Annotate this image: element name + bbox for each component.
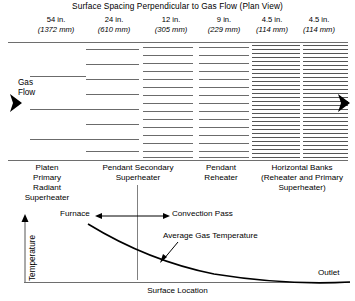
tube-line [143, 55, 193, 56]
tube-line [303, 153, 348, 154]
tube-line [303, 157, 348, 158]
tube-line [303, 89, 348, 90]
tube-line [303, 57, 348, 58]
column-header-5: 4.5 in. (114 mm) [283, 15, 355, 34]
tube-bank-pendant-reheater [199, 46, 249, 158]
component-label-line: Platen [8, 163, 86, 173]
tube-line [303, 117, 348, 118]
tube-line [199, 55, 249, 56]
tube-line [86, 49, 139, 50]
tube-bank-platen-primary-radiant-superheater [30, 46, 86, 156]
tube-line [199, 151, 249, 152]
tube-bank-pendant-secondary-superheater [86, 46, 139, 156]
gas-flow-outlet-arrow-icon [336, 92, 355, 114]
tube-line [252, 121, 300, 122]
tube-line [199, 127, 249, 128]
tube-line [252, 57, 300, 58]
tube-line [252, 129, 300, 130]
tube-line [303, 125, 348, 126]
tube-line [30, 139, 86, 140]
component-label-line: Superheater [86, 173, 190, 183]
tube-line [143, 119, 193, 120]
component-label-line: Superheater) [252, 183, 352, 193]
tube-line [252, 49, 300, 50]
component-label-line: Primary [8, 173, 86, 183]
tube-line [199, 157, 249, 158]
tube-line [199, 119, 249, 120]
tube-line [143, 79, 193, 80]
tube-line [86, 79, 139, 80]
tube-line [252, 61, 300, 62]
tube-line [252, 157, 300, 158]
tube-line [143, 151, 193, 152]
tube-line [252, 101, 300, 102]
average-gas-temperature-label: Average Gas Temperature [163, 231, 258, 241]
component-label-line: Superheater [8, 193, 86, 203]
tube-line [30, 109, 86, 110]
figure-title: Surface Spacing Perpendicular to Gas Flo… [0, 1, 355, 12]
tube-line [199, 71, 249, 72]
tube-line [252, 89, 300, 90]
tube-line [86, 124, 139, 125]
tube-line [252, 93, 300, 94]
tube-line [86, 94, 139, 95]
tube-line [252, 153, 300, 154]
tube-line [199, 79, 249, 80]
tube-line [252, 45, 300, 46]
tube-line [252, 149, 300, 150]
tube-line [86, 64, 139, 65]
tube-line [303, 49, 348, 50]
tube-line [143, 63, 193, 64]
tube-line [199, 111, 249, 112]
tube-line [86, 151, 139, 152]
tube-line [252, 69, 300, 70]
tube-line [252, 113, 300, 114]
tube-line [303, 149, 348, 150]
tube-line [199, 95, 249, 96]
tube-line [143, 135, 193, 136]
component-label-line: Radiant [8, 183, 86, 193]
tube-line [303, 69, 348, 70]
component-label-pendant-secondary-superheater: Pendant Secondary Superheater [86, 163, 190, 183]
tube-line [303, 145, 348, 146]
tube-bank-pendant-secondary-superheater-b [143, 46, 193, 158]
tube-line [252, 85, 300, 86]
tube-line [86, 109, 139, 110]
tube-line [303, 141, 348, 142]
tube-line [143, 157, 193, 158]
tube-line [86, 139, 139, 140]
tube-line [30, 76, 86, 77]
tube-line [252, 145, 300, 146]
tube-line [143, 87, 193, 88]
tube-line [143, 103, 193, 104]
tube-line [143, 47, 193, 48]
tube-line [303, 65, 348, 66]
x-axis-label: Surface Location [0, 286, 355, 296]
outlet-label: Outlet [318, 268, 340, 278]
tube-line [252, 81, 300, 82]
component-label-horizontal-banks: Horizontal Banks (Reheater and Primary S… [252, 163, 352, 193]
tube-line [303, 77, 348, 78]
tube-line [199, 63, 249, 64]
tube-line [252, 65, 300, 66]
average-gas-temperature-leader-icon [158, 241, 180, 263]
tube-line [252, 117, 300, 118]
plan-view-top-rule [8, 42, 348, 43]
tube-line [252, 141, 300, 142]
plan-view-bottom-rule [8, 160, 348, 161]
component-label-line: Horizontal Banks [252, 163, 352, 173]
tube-bank-horizontal-banks-a [252, 45, 300, 159]
tube-line [252, 105, 300, 106]
tube-line [303, 121, 348, 122]
tube-line [252, 97, 300, 98]
tube-line [303, 61, 348, 62]
spacing-inches-5: 4.5 in. [283, 15, 355, 25]
tube-line [252, 125, 300, 126]
tube-line [143, 143, 193, 144]
component-label-line: (Reheater and Primary [252, 173, 352, 183]
tube-line [252, 109, 300, 110]
tube-line [199, 143, 249, 144]
tube-line [252, 137, 300, 138]
tube-line [143, 127, 193, 128]
tube-line [303, 73, 348, 74]
